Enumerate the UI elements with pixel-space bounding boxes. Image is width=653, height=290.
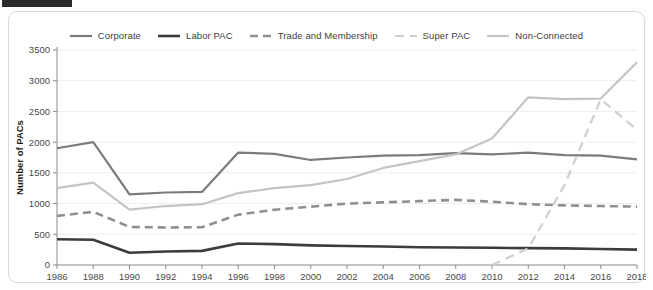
x-tick-label: 1988 (83, 271, 104, 282)
x-tick-label: 1994 (191, 271, 212, 282)
x-tick-label: 2008 (445, 271, 466, 282)
x-tick-label: 2006 (409, 271, 430, 282)
y-tick-label: 1000 (29, 198, 50, 209)
x-tick-label: 2002 (336, 271, 357, 282)
x-tick-label: 2004 (373, 271, 394, 282)
y-tick-label: 500 (34, 229, 50, 240)
chart-card: CorporateLabor PACTrade and MembershipSu… (8, 11, 645, 283)
y-tick-label: 3500 (29, 44, 50, 55)
x-tick-label: 2016 (590, 271, 611, 282)
x-tick-label: 1990 (119, 271, 140, 282)
series-line-super-pac (492, 99, 637, 265)
series-line-non-connected (57, 62, 637, 209)
x-tick-label: 1986 (46, 271, 67, 282)
line-chart-svg: 0500100015002000250030003500198619881990… (9, 12, 646, 284)
x-tick-label: 2010 (481, 271, 502, 282)
redaction-bar (2, 0, 72, 7)
x-tick-label: 2012 (518, 271, 539, 282)
x-tick-label: 2000 (300, 271, 321, 282)
series-line-corporate (57, 142, 637, 194)
y-tick-label: 2500 (29, 106, 50, 117)
y-tick-label: 1500 (29, 167, 50, 178)
plot-area: 0500100015002000250030003500198619881990… (9, 12, 646, 284)
y-tick-label: 2000 (29, 137, 50, 148)
x-tick-label: 2014 (554, 271, 575, 282)
x-tick-label: 1996 (228, 271, 249, 282)
x-tick-label: 1992 (155, 271, 176, 282)
y-axis-title: Number of PACs (14, 120, 25, 195)
series-line-labor-pac (57, 239, 637, 253)
y-tick-label: 0 (45, 259, 50, 270)
x-tick-label: 2018 (626, 271, 646, 282)
y-tick-label: 3000 (29, 75, 50, 86)
x-tick-label: 1998 (264, 271, 285, 282)
